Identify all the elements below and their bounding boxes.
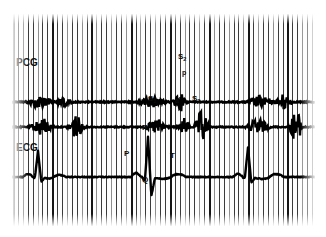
annotation-q-wave: Q: [142, 176, 148, 184]
pcg-channel-2-trace: [12, 112, 314, 139]
annotation-s2: S2: [178, 53, 186, 61]
annotation-p-sound: p: [182, 69, 186, 76]
annotation-p-wave: P: [124, 150, 129, 158]
annotation-r-wave: R: [142, 124, 148, 132]
annotation-a-wave: a: [175, 97, 179, 104]
ecg-trace: [12, 137, 315, 196]
pcg-channel-1-trace: [12, 94, 314, 111]
recording-strip: PCGECGS2pS1aS3RPTQ: [0, 0, 326, 237]
trace-canvas: [12, 14, 315, 226]
lead-label-pcg: PCG: [16, 58, 38, 68]
annotation-s1: S1: [148, 95, 156, 103]
lead-label-ecg: ECG: [16, 143, 38, 153]
annotation-t-wave: T: [170, 152, 175, 160]
recording-paper: PCGECGS2pS1aS3RPTQ: [12, 14, 315, 226]
annotation-s3: S3: [192, 95, 200, 103]
